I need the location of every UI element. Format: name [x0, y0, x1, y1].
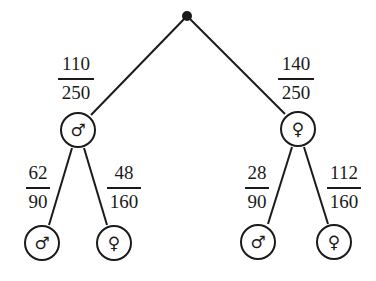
female-icon: ♀: [108, 233, 120, 253]
node-female-female: ♀: [316, 224, 352, 260]
node-female: ♀: [280, 111, 316, 147]
female-icon: ♀: [292, 119, 304, 139]
prob-numerator: 110: [58, 54, 94, 74]
prob-root-male: 110 250: [58, 54, 94, 103]
prob-denominator: 90: [245, 192, 269, 212]
fraction-bar: [26, 187, 50, 189]
male-icon: ♂: [70, 120, 85, 140]
prob-denominator: 160: [327, 192, 361, 212]
prob-male-female: 48 160: [107, 163, 141, 212]
prob-numerator: 62: [26, 163, 50, 183]
edge-female-to-female: [304, 147, 328, 224]
root-node: [182, 11, 192, 21]
edge-female-to-male: [268, 147, 292, 224]
prob-denominator: 160: [107, 192, 141, 212]
prob-female-female: 112 160: [327, 163, 361, 212]
prob-numerator: 28: [245, 163, 269, 183]
node-male: ♂: [60, 112, 96, 148]
fraction-bar: [58, 78, 94, 80]
prob-male-male: 62 90: [26, 163, 50, 212]
prob-female-male: 28 90: [245, 163, 269, 212]
male-icon: ♂: [34, 233, 49, 253]
node-male-male: ♂: [24, 225, 60, 261]
prob-numerator: 48: [107, 163, 141, 183]
fraction-bar: [327, 187, 361, 189]
prob-numerator: 112: [327, 163, 361, 183]
edge-male-to-male: [49, 148, 72, 225]
edge-root-to-male: [91, 16, 187, 115]
prob-numerator: 140: [278, 54, 314, 74]
female-icon: ♀: [328, 232, 340, 252]
node-female-male: ♂: [240, 224, 276, 260]
prob-denominator: 250: [278, 83, 314, 103]
prob-root-female: 140 250: [278, 54, 314, 103]
prob-denominator: 90: [26, 192, 50, 212]
edge-male-to-female: [84, 148, 107, 225]
prob-denominator: 250: [58, 83, 94, 103]
node-male-female: ♀: [96, 225, 132, 261]
fraction-bar: [107, 187, 141, 189]
fraction-bar: [278, 78, 314, 80]
fraction-bar: [245, 187, 269, 189]
edge-root-to-female: [187, 16, 285, 114]
male-icon: ♂: [250, 232, 265, 252]
